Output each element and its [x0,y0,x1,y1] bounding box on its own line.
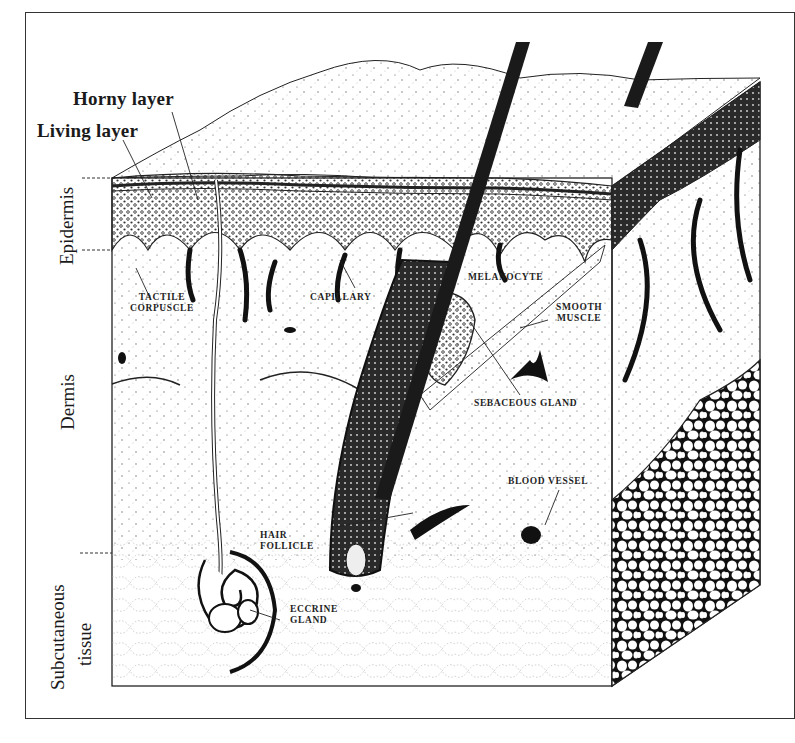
label-hair-follicle: HAIR FOLLICLE [260,530,314,552]
label-tactile-corpuscle: TACTILE CORPUSCLE [130,292,194,314]
label-living-layer: Living layer [37,120,138,142]
label-subcutaneous: Subcutaneous [47,584,69,690]
label-smooth-muscle: SMOOTH MUSCLE [556,302,602,324]
label-tissue: tissue [74,623,96,666]
label-epidermis: Epidermis [56,187,78,265]
layer-markers [80,178,112,553]
label-melanocyte: MELANOCYTE [468,272,543,283]
label-dermis: Dermis [57,374,79,430]
label-capillary: CAPILLARY [310,292,372,303]
label-eccrine-gland: ECCRINE GLAND [290,604,338,626]
label-horny-layer: Horny layer [73,88,174,110]
label-sebaceous-gland: SEBACEOUS GLAND [474,398,577,409]
label-blood-vessel: BLOOD VESSEL [508,476,588,487]
